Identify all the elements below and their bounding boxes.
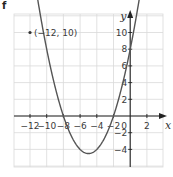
svg-text:y: y [119, 10, 127, 23]
svg-text:−10: −10 [37, 121, 56, 131]
svg-text:(−12, 10): (−12, 10) [34, 28, 77, 38]
svg-text:−6: −6 [73, 121, 87, 131]
svg-text:2: 2 [121, 95, 127, 105]
svg-text:10: 10 [116, 28, 128, 38]
svg-text:x: x [165, 119, 172, 132]
svg-text:−4: −4 [114, 145, 128, 155]
graph: −12−10−8−6−4−202108642−2−4xy (−12, 10) [0, 0, 173, 177]
svg-text:8: 8 [121, 44, 127, 54]
annotation: (−12, 10) [28, 28, 77, 38]
svg-text:−4: −4 [90, 121, 104, 131]
svg-text:−2: −2 [114, 128, 127, 138]
svg-text:2: 2 [144, 121, 150, 131]
